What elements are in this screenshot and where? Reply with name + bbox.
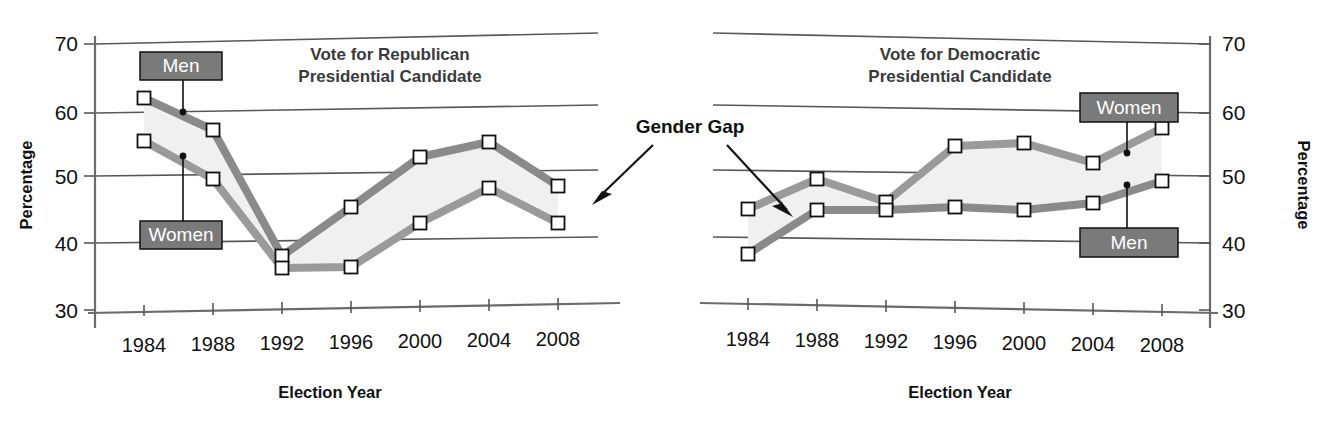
gridline-70-left — [95, 33, 598, 44]
marker-women-2000-right — [1018, 137, 1031, 150]
x-axis-title-right: Election Year — [908, 383, 1012, 401]
y-tick-60-left: 60 — [55, 101, 78, 124]
marker-women-2008-left — [552, 217, 565, 230]
x-tick-2004-right: 2004 — [1071, 333, 1116, 355]
x-tick-1996-left: 1996 — [329, 331, 374, 353]
callout-dot-men-right — [1124, 182, 1131, 189]
y-tick-50-left: 50 — [55, 165, 78, 188]
chart-panel-democratic: 70 60 50 40 30 Percentage — [660, 0, 1341, 426]
callout-label-women-left: Women — [148, 224, 213, 245]
democratic-chart-svg: 70 60 50 40 30 Percentage — [660, 0, 1341, 426]
y-tick-40-left: 40 — [55, 232, 78, 255]
y-tick-40-right: 40 — [1222, 232, 1245, 255]
chart-title-line1-left: Vote for Republican — [310, 45, 469, 64]
marker-women-1992-left — [276, 262, 289, 275]
marker-men-1992-right — [880, 204, 893, 217]
marker-men-2004-right — [1087, 197, 1100, 210]
x-axis-right — [700, 303, 1218, 313]
marker-men-1992-left — [276, 250, 289, 263]
x-tick-1992-right: 1992 — [864, 330, 909, 352]
marker-men-1984-left — [138, 92, 151, 105]
callout-dot-women-left — [180, 153, 187, 160]
marker-women-1996-left — [345, 261, 358, 274]
marker-men-1996-left — [345, 201, 358, 214]
marker-men-2000-left — [414, 151, 427, 164]
marker-women-1988-right — [811, 173, 824, 186]
x-tick-1992-left: 1992 — [260, 332, 305, 354]
marker-women-1984-right — [742, 203, 755, 216]
figure-root: Percentage 70 60 50 40 30 — [0, 0, 1341, 426]
x-tick-2008-right: 2008 — [1140, 334, 1185, 356]
marker-men-2008-left — [552, 180, 565, 193]
marker-women-2004-left — [483, 182, 496, 195]
marker-men-1988-left — [207, 124, 220, 137]
marker-men-2008-right — [1156, 175, 1169, 188]
x-tick-2008-left: 2008 — [536, 328, 581, 350]
y-axis-title-right: Percentage — [1295, 141, 1313, 230]
marker-men-1988-right — [811, 204, 824, 217]
marker-men-1984-right — [742, 248, 755, 261]
x-tick-1988-right: 1988 — [795, 329, 840, 351]
callout-label-women-right: Women — [1096, 97, 1161, 118]
republican-chart-svg: Percentage 70 60 50 40 30 — [0, 0, 660, 426]
chart-title-line2-left: Presidential Candidate — [298, 67, 481, 86]
marker-women-2000-left — [414, 217, 427, 230]
y-tick-70-right: 70 — [1222, 32, 1245, 55]
x-axis-title-left: Election Year — [278, 383, 382, 401]
chart-panel-republican: Percentage 70 60 50 40 30 — [0, 0, 660, 426]
marker-women-1984-left — [138, 135, 151, 148]
x-tick-1996-right: 1996 — [933, 331, 978, 353]
chart-title-line1-right: Vote for Democratic — [880, 45, 1040, 64]
marker-women-2004-right — [1087, 157, 1100, 170]
x-tick-2000-left: 2000 — [398, 330, 443, 352]
y-tick-30-left: 30 — [55, 299, 78, 322]
chart-title-line2-right: Presidential Candidate — [868, 67, 1051, 86]
y-tick-30-right: 30 — [1222, 299, 1245, 322]
y-tick-70-left: 70 — [55, 32, 78, 55]
marker-women-1988-left — [207, 173, 220, 186]
marker-men-2004-left — [483, 136, 496, 149]
marker-men-2000-right — [1018, 204, 1031, 217]
marker-women-2008-right — [1156, 122, 1169, 135]
x-tick-1984-right: 1984 — [726, 328, 771, 350]
x-tick-2000-right: 2000 — [1002, 332, 1047, 354]
marker-women-1996-right — [949, 140, 962, 153]
gridline-70-right — [713, 33, 1210, 44]
callout-label-men-right: Men — [1111, 232, 1148, 253]
x-tick-1988-left: 1988 — [191, 333, 236, 355]
marker-men-1996-right — [949, 201, 962, 214]
callout-dot-women-right — [1124, 150, 1131, 157]
x-tick-1984-left: 1984 — [122, 334, 167, 356]
callout-dot-men-left — [180, 109, 187, 116]
y-axis-title-left: Percentage — [17, 141, 35, 230]
callout-label-men-left: Men — [163, 55, 200, 76]
y-tick-60-right: 60 — [1222, 101, 1245, 124]
y-tick-50-right: 50 — [1222, 165, 1245, 188]
x-axis-left — [88, 303, 620, 313]
x-tick-2004-left: 2004 — [467, 329, 512, 351]
